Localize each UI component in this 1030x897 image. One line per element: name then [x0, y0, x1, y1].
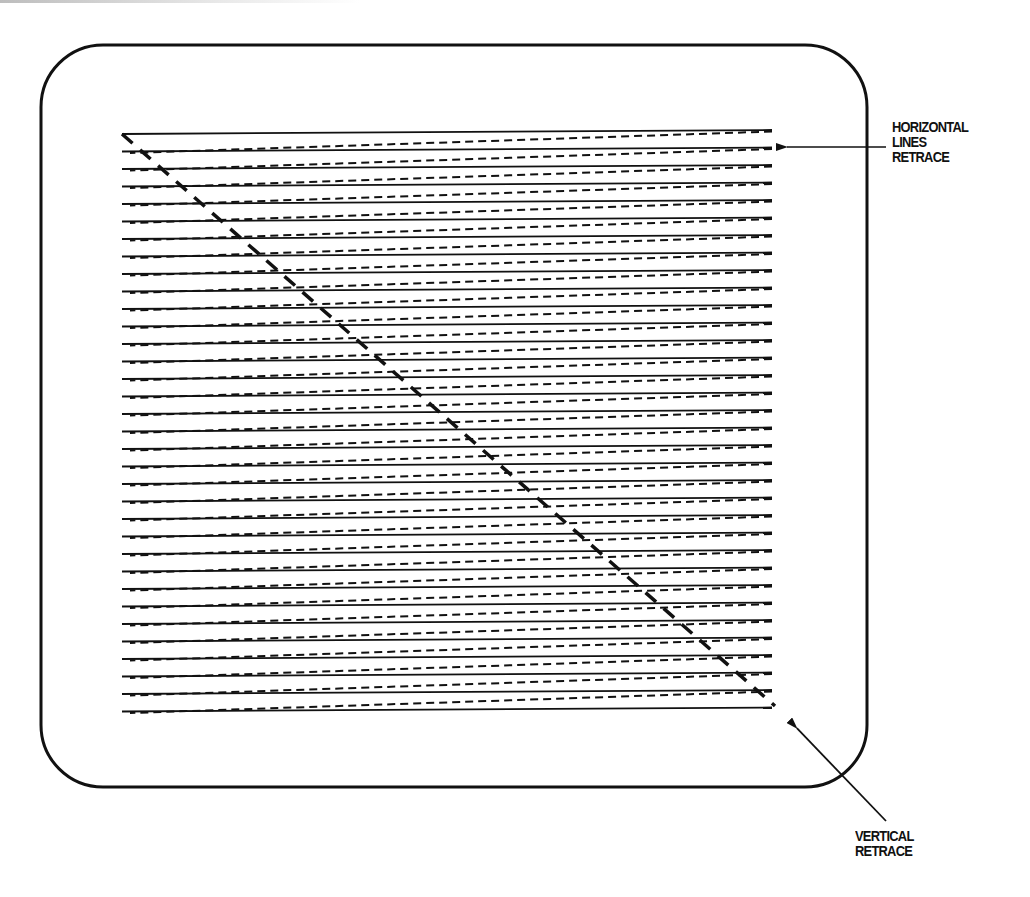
- label-line: HORIZONTAL: [892, 120, 968, 135]
- label-line: RETRACE: [892, 150, 968, 165]
- label-line: LINES: [892, 135, 968, 150]
- scan-line: [122, 130, 772, 134]
- label-line: RETRACE: [855, 844, 914, 859]
- horizontal-lines-retrace-label: HORIZONTAL LINES RETRACE: [892, 120, 968, 165]
- raster-scan-diagram: [0, 0, 1030, 897]
- label-line: VERTICAL: [855, 829, 914, 844]
- vertical-retrace-label: VERTICAL RETRACE: [855, 829, 914, 859]
- vertical-retrace-arrow: [797, 728, 886, 821]
